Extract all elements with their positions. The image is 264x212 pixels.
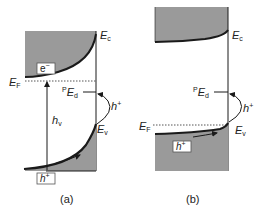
label-hplus-a: h+ [111,100,121,112]
conduction-band-fill-a [25,31,96,77]
label-Ec-b: Ec [232,29,243,42]
hole-transition-arrow-b [229,94,242,122]
label-Ed-b: PEd [193,86,209,99]
band-diagram: e− h+ Ec EF PEd hv h+ Ev (a) h+ [0,0,264,212]
hole-transition-arrow-a [97,94,110,124]
label-EF-b: EF [139,120,151,133]
caption-a: (a) [60,193,73,205]
label-EF-a: EF [9,76,21,89]
label-Ev-b: Ev [235,124,246,137]
label-Ed-a: PEd [62,86,78,99]
caption-b: (b) [186,193,199,205]
panel-b: h+ Ec PEd h+ EF Ev (b) [139,7,253,205]
label-Ev-a: Ev [97,123,108,136]
label-hv-a: hv [52,114,62,127]
panel-a: e− h+ Ec EF PEd hv h+ Ev (a) [9,29,121,205]
label-hplus-b: h+ [243,102,253,114]
label-Ec-a: Ec [100,29,111,42]
